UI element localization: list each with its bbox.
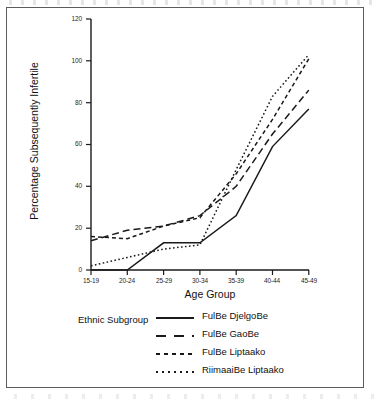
legend-label: RiimaaiBe Liptaako (202, 364, 284, 375)
x-tick-label: 45-49 (292, 277, 326, 284)
x-tick-label: 25-29 (147, 277, 181, 284)
data-series-layer (91, 55, 309, 270)
legend-label: FulBe DjelgoBe (202, 310, 268, 321)
y-tick-label: 120 (60, 15, 82, 22)
y-tick-label: 80 (60, 99, 82, 106)
x-tick-label: 30-34 (183, 277, 217, 284)
y-tick-label: 20 (60, 224, 82, 231)
legend-swatch-long-dash (156, 335, 194, 337)
x-tick-label: 40-44 (255, 277, 289, 284)
x-axis-title: Age Group (120, 288, 300, 300)
figure-container: 120 100 80 60 40 20 0 15-19 20-24 25-29 … (0, 0, 378, 402)
y-tick-label: 40 (60, 182, 82, 189)
legend-swatch-solid (156, 317, 194, 319)
series-line-solid (91, 109, 309, 270)
x-tick-label: 20-24 (110, 277, 144, 284)
series-line-dotted (91, 55, 309, 266)
axis-lines (91, 19, 309, 270)
y-axis-title: Percentage Subsequently Infertile (28, 51, 40, 231)
y-tick-label: 0 (60, 266, 82, 273)
legend-label: FulBe Liptaako (202, 346, 265, 357)
series-line-dashed (91, 59, 309, 239)
line-chart-plot (0, 0, 378, 402)
legend-swatch-dashed (156, 353, 194, 355)
y-axis-ticks (86, 19, 91, 270)
y-tick-label: 60 (60, 140, 82, 147)
x-tick-label: 35-39 (219, 277, 253, 284)
y-tick-label: 100 (60, 57, 82, 64)
legend-swatch-dotted (156, 371, 194, 373)
legend-label: FulBe GaoBe (202, 328, 259, 339)
x-tick-label: 15-19 (74, 277, 108, 284)
legend-title: Ethnic Subgroup (78, 314, 148, 325)
